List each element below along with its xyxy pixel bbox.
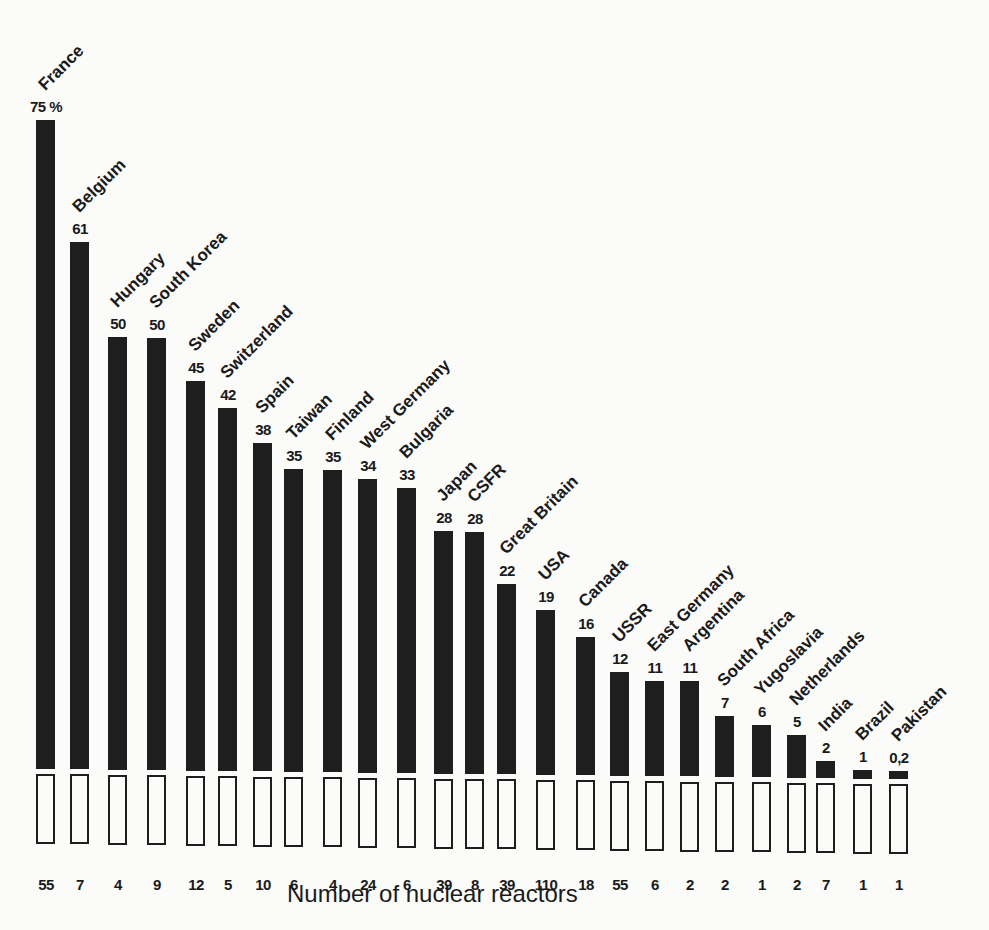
reactor-box <box>358 778 377 848</box>
reactor-box <box>36 774 55 844</box>
share-bar <box>397 488 416 773</box>
reactor-box <box>853 784 872 854</box>
share-value-label: 35 <box>274 447 314 464</box>
share-value-label: 12 <box>600 650 640 667</box>
country-label: India <box>815 694 856 735</box>
share-value-label: 42 <box>208 386 248 403</box>
share-bar <box>816 761 835 778</box>
share-value-label: 16 <box>566 615 606 632</box>
reactor-box <box>816 783 835 853</box>
share-value-label: 50 <box>137 316 177 333</box>
share-value-label: 5 <box>777 713 817 730</box>
share-value-label: 50 <box>98 315 138 332</box>
share-bar <box>889 771 908 779</box>
reactor-count-label: 1 <box>879 876 919 893</box>
share-bar <box>680 681 699 776</box>
share-value-label: 2 <box>806 739 846 756</box>
reactor-count-label: 1 <box>742 876 782 893</box>
share-bar <box>70 242 89 770</box>
reactor-box <box>253 777 272 847</box>
reactor-box <box>889 784 908 854</box>
reactor-box <box>645 781 664 851</box>
share-bar <box>323 470 342 773</box>
share-bar <box>787 735 806 778</box>
share-bar <box>752 725 771 777</box>
reactor-box <box>610 781 629 851</box>
share-value-label: 35 <box>313 448 353 465</box>
country-label: France <box>35 42 87 94</box>
country-label: Pakistan <box>888 683 950 745</box>
share-bar <box>147 338 166 771</box>
nuclear-share-bar-chart: 75 %France5561Belgium750Hungary450South … <box>0 0 989 930</box>
share-value-label: 11 <box>635 659 675 676</box>
share-value-label: 38 <box>243 421 283 438</box>
share-bar <box>497 584 516 774</box>
country-label: USA <box>535 546 573 584</box>
share-bar <box>576 637 595 775</box>
reactor-count-label: 4 <box>98 876 138 893</box>
share-bar <box>645 681 664 776</box>
share-value-label: 1 <box>843 748 883 765</box>
reactor-box <box>147 775 166 845</box>
reactor-count-label: 2 <box>670 876 710 893</box>
share-bar <box>358 479 377 773</box>
share-value-label: 33 <box>387 466 427 483</box>
reactor-box <box>536 780 555 850</box>
share-bar <box>218 408 237 771</box>
country-label: Brazil <box>852 698 897 743</box>
reactor-count-label: 7 <box>806 876 846 893</box>
reactor-box <box>787 783 806 853</box>
reactor-count-label: 2 <box>705 876 745 893</box>
share-bar <box>853 770 872 779</box>
reactor-count-label: 5 <box>208 876 248 893</box>
reactor-count-label: 55 <box>600 876 640 893</box>
country-label: Spain <box>252 371 297 416</box>
reactor-box <box>715 782 734 852</box>
reactor-count-label: 1 <box>843 876 883 893</box>
share-bar <box>108 337 127 770</box>
country-label: Belgium <box>69 156 129 216</box>
reactor-count-label: 6 <box>635 876 675 893</box>
reactor-box <box>323 777 342 847</box>
reactor-box <box>576 780 595 850</box>
share-bar <box>434 531 453 773</box>
reactor-box <box>752 782 771 852</box>
reactor-box <box>108 775 127 845</box>
reactor-count-label: 9 <box>137 876 177 893</box>
reactor-box <box>218 776 237 846</box>
share-bar <box>36 120 55 769</box>
reactor-box <box>497 779 516 849</box>
reactor-box <box>70 774 89 844</box>
x-axis-label: Number of nuclear reactors <box>287 880 578 908</box>
reactor-count-label: 7 <box>60 876 100 893</box>
reactor-box <box>680 782 699 852</box>
reactor-box <box>434 779 453 849</box>
share-value-label: 75 % <box>26 98 66 115</box>
share-bar <box>284 469 303 772</box>
reactor-box <box>284 777 303 847</box>
reactor-box <box>397 778 416 848</box>
share-value-label: 34 <box>348 457 388 474</box>
share-bar <box>715 716 734 777</box>
share-bar <box>536 610 555 774</box>
share-bar <box>610 672 629 776</box>
share-bar <box>465 532 484 774</box>
share-value-label: 22 <box>487 562 527 579</box>
country-label: Sweden <box>185 297 243 355</box>
share-value-label: 28 <box>455 510 495 527</box>
country-label: Great Britain <box>496 473 582 559</box>
share-value-label: 7 <box>705 694 745 711</box>
share-value-label: 61 <box>60 220 100 237</box>
share-bar <box>186 381 205 770</box>
country-label: Canada <box>575 555 631 611</box>
share-value-label: 0,2 <box>879 749 919 766</box>
share-bar <box>253 443 272 772</box>
share-value-label: 6 <box>742 703 782 720</box>
share-value-label: 19 <box>526 588 566 605</box>
share-value-label: 45 <box>176 359 216 376</box>
reactor-box <box>465 779 484 849</box>
share-value-label: 11 <box>670 659 710 676</box>
reactor-box <box>186 776 205 846</box>
